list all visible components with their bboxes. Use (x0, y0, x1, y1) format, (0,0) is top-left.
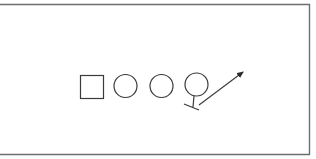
players (81, 73, 209, 99)
diagram-svg (0, 0, 316, 159)
block-stem (193, 96, 194, 107)
frame-border (0, 5, 310, 155)
player-circle-1-icon (114, 75, 137, 98)
play-diagram (0, 0, 316, 159)
block-symbol (184, 96, 199, 110)
diagram-frame (0, 5, 310, 155)
player-circle-2-icon (150, 75, 173, 98)
player-circle-3-icon (185, 73, 208, 96)
player-square-icon (81, 76, 104, 99)
block-bar (184, 104, 199, 110)
